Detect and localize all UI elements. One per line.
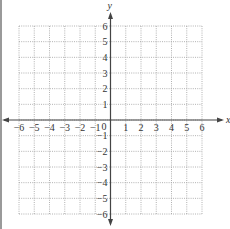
y-tick-label: −2 bbox=[97, 146, 108, 157]
y-tick-label: 6 bbox=[103, 21, 108, 32]
x-tick-label: 5 bbox=[184, 122, 189, 133]
x-tick-label: −3 bbox=[59, 122, 70, 133]
y-tick-label: 2 bbox=[103, 83, 108, 94]
y-tick-label: −1 bbox=[97, 130, 108, 141]
y-tick-label: 3 bbox=[103, 68, 108, 79]
x-axis-left-arrow-icon bbox=[2, 118, 9, 123]
x-tick-label: −2 bbox=[75, 122, 86, 133]
x-tick-label: −4 bbox=[44, 122, 55, 133]
y-axis-down-arrow-icon bbox=[108, 219, 113, 226]
x-tick-label: 6 bbox=[200, 122, 205, 133]
y-tick-label: 4 bbox=[103, 52, 108, 63]
y-axis-label: y bbox=[107, 0, 113, 11]
x-tick-label: 4 bbox=[169, 122, 174, 133]
y-tick-label: −3 bbox=[97, 162, 108, 173]
x-tick-label: −5 bbox=[29, 122, 40, 133]
y-tick-label: −5 bbox=[97, 193, 108, 204]
x-tick-label: −6 bbox=[14, 122, 25, 133]
x-tick-label: 3 bbox=[154, 122, 159, 133]
x-tick-label: 2 bbox=[139, 122, 144, 133]
x-axis-label: x bbox=[225, 114, 230, 125]
x-tick-label: 1 bbox=[123, 122, 128, 133]
y-axis-up-arrow-icon bbox=[108, 12, 113, 19]
x-axis-right-arrow-icon bbox=[217, 118, 224, 123]
coordinate-plane: xy−6−5−4−3−2−11234560654321−1−2−3−4−5−6 bbox=[0, 0, 230, 229]
y-tick-label: −4 bbox=[97, 177, 108, 188]
y-tick-label: 5 bbox=[103, 36, 108, 47]
y-tick-label: 1 bbox=[103, 99, 108, 110]
y-tick-label: −6 bbox=[97, 209, 108, 220]
